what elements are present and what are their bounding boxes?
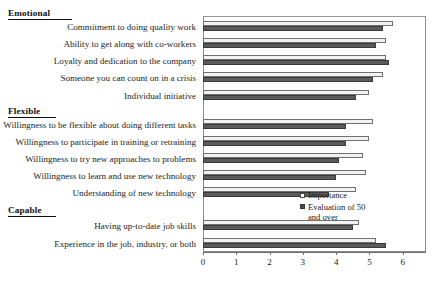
x-axis-tick	[236, 252, 237, 255]
legend-swatch-icon	[300, 204, 305, 209]
x-axis-tick	[369, 252, 370, 255]
x-axis-tick	[303, 252, 304, 255]
x-axis-tick-label: 6	[394, 257, 412, 267]
x-axis-tick-label: 2	[261, 257, 279, 267]
x-axis-tick-label: 5	[360, 257, 378, 267]
x-axis-tick	[336, 252, 337, 255]
x-axis-tick-label: 3	[294, 257, 312, 267]
legend-label: Evaluation of 50 and over	[308, 202, 365, 223]
legend-label: Importance	[308, 190, 347, 201]
x-axis-tick	[203, 252, 204, 255]
legend: Importance Evaluation of 50 and over	[300, 190, 365, 224]
x-axis-ticks: 0123456	[0, 0, 439, 290]
x-axis-tick-label: 0	[194, 257, 212, 267]
x-axis-tick-label: 4	[327, 257, 345, 267]
legend-item-evaluation: Evaluation of 50 and over	[300, 202, 365, 223]
x-axis-tick-label: 1	[227, 257, 245, 267]
x-axis-tick	[403, 252, 404, 255]
bar-chart: Emotional Commitment to doing quality wo…	[0, 0, 439, 290]
legend-item-importance: Importance	[300, 190, 365, 201]
legend-swatch-icon	[300, 193, 305, 198]
x-axis-tick	[270, 252, 271, 255]
